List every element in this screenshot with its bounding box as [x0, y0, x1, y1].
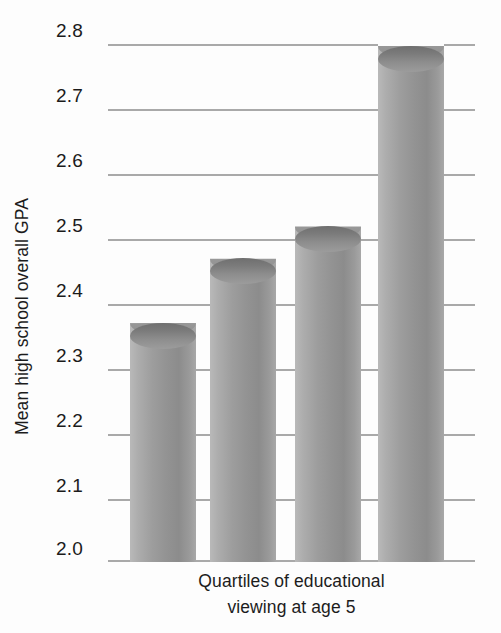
- bar-quartile-3[interactable]: [295, 227, 361, 562]
- y-tick-label: 2.6: [56, 150, 108, 172]
- bar-top-mask: [295, 214, 361, 227]
- x-axis-title-line-2: viewing at age 5: [108, 594, 475, 620]
- bar-quartile-2[interactable]: [210, 259, 276, 562]
- bar-top-inner-ellipse: [295, 226, 361, 252]
- y-tick-label: 2.2: [56, 410, 108, 432]
- y-tick-label: 2.4: [56, 280, 108, 302]
- bar-top-mask: [210, 246, 276, 259]
- plot-area: [108, 44, 475, 562]
- bar-top-mask: [130, 310, 196, 323]
- bar-top-inner-ellipse: [378, 46, 444, 72]
- bar-top-inner-ellipse: [210, 258, 276, 284]
- bar-quartile-1[interactable]: [130, 323, 196, 562]
- x-axis-title-line-1: Quartiles of educational: [108, 568, 475, 594]
- y-tick-label: 2.3: [56, 345, 108, 367]
- bar-top-mask: [378, 33, 444, 46]
- x-axis-title: Quartiles of educational viewing at age …: [108, 568, 475, 620]
- bar-top-inner-ellipse: [130, 323, 196, 349]
- y-tick-label: 2.0: [56, 538, 108, 560]
- y-tick-label: 2.5: [56, 215, 108, 237]
- y-tick-label: 2.1: [56, 475, 108, 497]
- y-tick-label: 2.7: [56, 85, 108, 107]
- y-tick-label: 2.8: [56, 20, 108, 42]
- bar-quartile-4[interactable]: [378, 46, 444, 562]
- bar-chart: Mean high school overall GPA 2.8 2.7 2.6…: [0, 0, 501, 633]
- y-axis-tick-labels: 2.8 2.7 2.6 2.5 2.4 2.3 2.2 2.1 2.0: [52, 0, 108, 633]
- y-axis-title: Mean high school overall GPA: [0, 0, 44, 633]
